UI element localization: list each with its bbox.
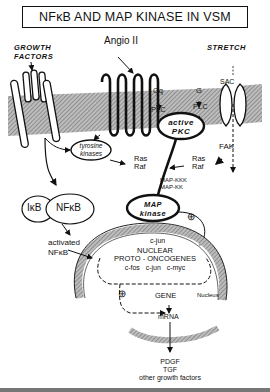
stretch-label: STRETCH: [207, 43, 246, 52]
proto-oncogenes-label: PROTO - ONCOGENES: [100, 254, 210, 263]
activated-nfkb-label: NFκB: [48, 248, 68, 257]
nucleus-label: Nucleus: [197, 291, 219, 300]
plc-right-label: PLC: [193, 102, 208, 111]
nfkb-label: NFκB: [56, 203, 81, 212]
oncogene-list: c-fos c-jun c-myc: [100, 263, 210, 272]
output-list: PDGFTGFother growth factors: [130, 358, 210, 382]
plus-icon: ⊕: [118, 289, 126, 298]
map-kkk-label: MAP-KKKMAP-KK: [160, 177, 187, 190]
gene-label: GENE: [155, 291, 176, 300]
ras-raf-right-label: RasRaf: [192, 155, 205, 171]
divider: [0, 388, 270, 392]
g-label: G: [196, 86, 202, 95]
growth-factors-label: GROWTHFACTORS: [14, 43, 53, 61]
sac-label: SAC: [220, 77, 234, 86]
c-jun-top-label: c-jun: [150, 236, 165, 245]
plc-left-label: PLC: [151, 105, 166, 114]
active-pkc-label: activePKC: [164, 118, 198, 136]
plus-icon: ⊕: [187, 212, 195, 221]
tyrosine-kinases-label: tyrosinekinases: [71, 142, 111, 157]
ikb-label: IκB: [27, 203, 41, 212]
gq-label: Gq: [153, 86, 163, 95]
mrna-label: mRNA: [158, 312, 179, 321]
ras-raf-left-label: RasRaf: [134, 155, 147, 171]
activated-label: activated: [48, 238, 80, 247]
fak-label: FAK: [219, 142, 234, 151]
angio-ii-label: Angio II: [104, 36, 138, 45]
map-kinase-label: MAPkinase: [136, 200, 170, 218]
